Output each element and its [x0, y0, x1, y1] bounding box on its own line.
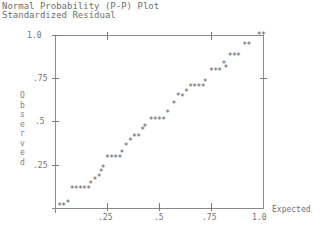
x-tick-label: .5 — [154, 213, 164, 222]
right-axis — [263, 35, 264, 209]
y-tick — [52, 35, 59, 36]
data-point: * — [136, 134, 141, 142]
y-axis-label-char: v — [20, 139, 25, 148]
y-tick — [52, 165, 59, 166]
y-axis-label-char: O — [20, 91, 25, 100]
x-axis — [52, 208, 264, 209]
data-point: * — [236, 53, 241, 61]
x-tick — [211, 203, 212, 211]
top-axis — [55, 35, 263, 36]
data-point: * — [161, 117, 166, 125]
data-point: * — [217, 68, 222, 76]
data-point: * — [65, 200, 70, 208]
y-axis-label-char: s — [20, 110, 25, 119]
y-axis-label-char: r — [20, 129, 25, 138]
y-tick-label: .75 — [33, 74, 47, 83]
y-axis-label-char: b — [20, 101, 25, 110]
y-axis — [55, 35, 56, 213]
y-tick — [52, 121, 59, 122]
data-point: * — [172, 101, 177, 109]
data-point: * — [261, 32, 266, 40]
x-tick-label: .75 — [202, 213, 216, 222]
x-tick-label: .25 — [98, 213, 112, 222]
x-tick — [107, 203, 108, 211]
y-axis-label-char: d — [20, 158, 25, 167]
data-point: * — [165, 110, 170, 118]
y-tick-label: 1.0 — [27, 31, 41, 40]
y-axis-label-char: e — [20, 120, 25, 129]
y-tick-label: .5 — [35, 117, 45, 126]
data-point: * — [224, 65, 229, 73]
chart-subtitle: Standardized Residual — [2, 11, 116, 20]
data-point: * — [246, 42, 251, 50]
top-tick — [107, 32, 108, 40]
top-tick — [211, 32, 212, 40]
data-point: * — [203, 79, 208, 87]
x-axis-label: Expected — [272, 205, 311, 214]
y-axis-label-char: e — [20, 148, 25, 157]
data-point: * — [142, 124, 147, 132]
right-tick — [260, 78, 267, 79]
x-tick-label: 1.0 — [252, 213, 266, 222]
y-tick — [52, 78, 59, 79]
x-tick — [159, 203, 160, 211]
y-tick-label: .25 — [33, 161, 47, 170]
data-point: * — [101, 165, 106, 173]
data-point: * — [120, 150, 125, 158]
